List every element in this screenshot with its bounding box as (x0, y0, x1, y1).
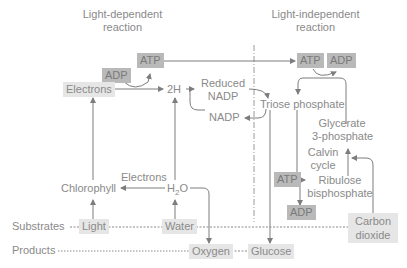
header-light-dependent-line1: Light-dependent (80, 8, 165, 21)
reduced-nadp-node: Reduced NADP (195, 77, 251, 103)
glycerate-node: Glycerate 3-phosphate (312, 117, 372, 143)
products-label: Products (12, 244, 55, 257)
header-light-independent-line2: reaction (268, 21, 363, 34)
header-light-independent-line1: Light-independent (268, 8, 363, 21)
substrates-label: Substrates (12, 220, 65, 233)
triose-phosphate-node: Triose phosphate (260, 98, 345, 111)
calvin-line1: Calvin (305, 146, 341, 159)
electrons-label: Electrons (121, 171, 167, 184)
adp-node-bottom: ADP (287, 205, 316, 220)
carbon-dioxide-node: Carbon dioxide (348, 213, 398, 243)
chlorophyll-label: Chlorophyll (61, 182, 116, 194)
atp-node-left: ATP (137, 53, 164, 68)
glycerate-line1: Glycerate (312, 117, 372, 130)
atp-node-bottom: ATP (274, 172, 301, 187)
adp-node-right: ADP (327, 53, 356, 68)
glycerate-line2: 3-phosphate (312, 130, 372, 143)
calvin-cycle-label: Calvin cycle (305, 146, 341, 172)
atp-node-right: ATP (297, 53, 324, 68)
nadp-node: NADP (209, 111, 240, 124)
header-light-dependent-line2: reaction (80, 21, 165, 34)
adp-node-left: ADP (102, 68, 131, 83)
carbon-dioxide-line1: Carbon (351, 214, 395, 228)
ribulose-line1: Ribulose (307, 174, 373, 187)
water-node: Water (162, 219, 197, 234)
reduced-nadp-line1: Reduced (195, 77, 251, 90)
carbon-dioxide-line2: dioxide (351, 228, 395, 242)
chlorophyll-node: Chlorophyll (61, 182, 116, 195)
electrons-node: Electrons (63, 82, 115, 97)
reduced-nadp-line2: NADP (195, 90, 251, 103)
header-light-independent: Light-independent reaction (268, 8, 363, 34)
header-light-dependent: Light-dependent reaction (80, 8, 165, 34)
ribulose-line2: bisphosphate (307, 187, 373, 200)
two-h-node: 2H (167, 83, 181, 96)
h2o-o: O (179, 182, 188, 194)
ribulose-node: Ribulose bisphosphate (307, 174, 373, 200)
calvin-line2: cycle (305, 159, 341, 172)
h2o-h: H (167, 182, 175, 194)
light-node: Light (79, 219, 109, 234)
h2o-node: H2O (167, 182, 188, 199)
oxygen-node: Oxygen (189, 244, 233, 259)
glucose-node: Glucose (248, 244, 294, 259)
